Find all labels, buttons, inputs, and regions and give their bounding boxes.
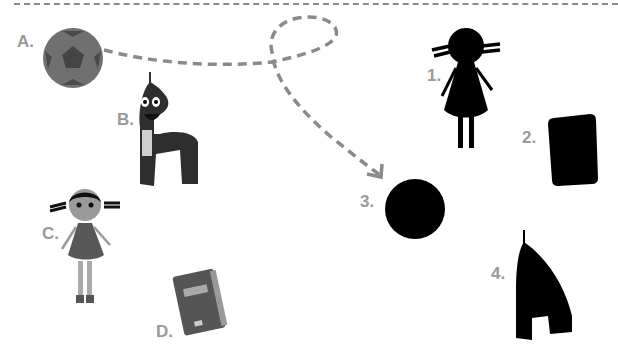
letter-a-character-icon[interactable]	[136, 72, 206, 190]
ball-icon[interactable]	[42, 27, 104, 89]
label-a: A.	[17, 32, 34, 52]
label-b: B.	[117, 110, 134, 130]
book-icon[interactable]	[168, 266, 232, 338]
girl-silhouette-icon[interactable]	[430, 26, 502, 154]
ball-silhouette-icon[interactable]	[384, 178, 446, 240]
book-silhouette-icon[interactable]	[544, 112, 600, 188]
letter-a-silhouette-icon[interactable]	[514, 230, 576, 346]
label-4: 4.	[491, 264, 505, 284]
label-3: 3.	[360, 192, 374, 212]
girl-doll-icon[interactable]	[48, 185, 122, 311]
label-2: 2.	[522, 128, 536, 148]
